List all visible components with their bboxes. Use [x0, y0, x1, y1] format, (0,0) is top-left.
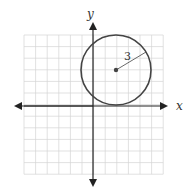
- radius-label: 3: [124, 50, 131, 63]
- y-axis-label: y: [86, 7, 94, 21]
- coordinate-graph: 3 x y: [0, 0, 192, 193]
- radius-line: [116, 52, 146, 70]
- x-axis-label: x: [176, 99, 183, 113]
